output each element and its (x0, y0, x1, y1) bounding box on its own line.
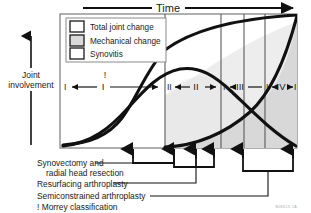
stage-label-II: II (193, 81, 198, 92)
legend-label-mechanical-change: Mechanical change (90, 37, 161, 46)
stage-label-III: III (236, 81, 244, 92)
morrey-note-symbol: ! (104, 70, 107, 80)
annotation-resurfacing: Resurfacing arthroplasty (37, 179, 129, 189)
legend-swatch-synovitis (70, 48, 84, 59)
legend-label-synovitis: Synovitis (90, 50, 123, 59)
stage-tick-left: I (64, 82, 66, 92)
stage-tick-right: I (294, 82, 296, 92)
y-axis-label-line1: Joint (22, 70, 41, 80)
legend-swatch-total-joint-change (70, 21, 84, 32)
legend-label-total-joint-change: Total joint change (90, 23, 154, 32)
annotation-semiconstrained: Semiconstrained arthroplasty (37, 191, 146, 201)
footnote-morrey-classification: ! Morrey classification (37, 202, 118, 212)
annotation-synovectomy-line2: radial head resection (46, 168, 124, 178)
legend-swatch-mechanical-change (70, 35, 84, 46)
stage-label-I: I (102, 81, 105, 92)
stage-label-IV: IV (277, 81, 287, 92)
stage-tick-2: II (167, 82, 172, 92)
x-axis-label: Time (156, 2, 180, 14)
legend: Total joint change Mechanical change Syn… (66, 18, 166, 62)
annotation-synovectomy-line1: Synovectomy and (37, 158, 104, 168)
stage-tick-3: I (223, 82, 225, 92)
y-axis-label-line2: involvement (8, 80, 54, 90)
stage-tick-4: I (266, 82, 268, 92)
plot-area: Total joint change Mechanical change Syn… (60, 14, 297, 148)
rheumatoid-elbow-staging-figure: Time Joint involvement (0, 0, 311, 213)
figure-watermark: B08613-1A (275, 205, 297, 209)
